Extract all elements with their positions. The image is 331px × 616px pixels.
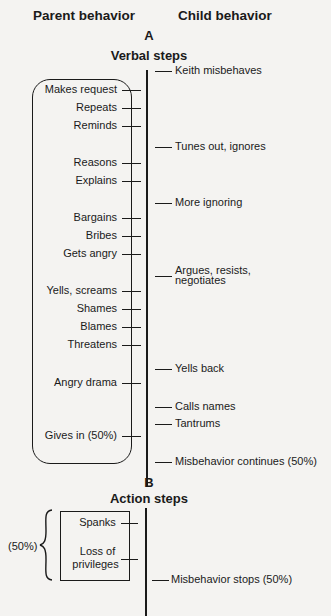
action-step-label: Loss of [70, 545, 125, 558]
child-response-label: Keith misbehaves [175, 64, 262, 77]
response-tick [155, 203, 172, 204]
child-response-label: Misbehavior stops (50%) [171, 573, 292, 586]
section-a-title: Verbal steps [49, 48, 249, 63]
parent-step-label: Bribes [20, 229, 117, 242]
parent-step-label: Gives in (50%) [20, 429, 117, 442]
step-tick [122, 291, 141, 292]
step-tick [122, 218, 141, 219]
step-tick [122, 181, 141, 182]
child-behavior-header: Child behavior [178, 8, 272, 23]
step-tick [122, 345, 141, 346]
step-tick [122, 236, 141, 237]
child-response-label: More ignoring [175, 196, 242, 209]
action-step-label: Spanks [70, 516, 125, 529]
parent-step-label: Shames [20, 302, 117, 315]
parent-step-label: Angry drama [20, 376, 117, 389]
parent-step-label: Reasons [20, 156, 117, 169]
step-tick [122, 436, 141, 437]
step-tick [122, 90, 141, 91]
section-a-letter: A [49, 28, 249, 43]
response-tick [155, 71, 172, 72]
response-tick [155, 369, 172, 370]
response-tick [155, 276, 172, 277]
parent-step-label: Repeats [20, 101, 117, 114]
parent-step-label: Gets angry [20, 247, 117, 260]
response-tick [152, 580, 169, 581]
step-tick [122, 309, 141, 310]
section-b-letter: B [49, 475, 249, 490]
child-response-label: Misbehavior continues (50%) [175, 455, 317, 468]
response-tick [155, 407, 172, 408]
timeline-a [146, 70, 148, 487]
step-tick [122, 254, 141, 255]
response-tick [155, 424, 172, 425]
response-tick [155, 462, 172, 463]
step-tick [122, 383, 141, 384]
parent-step-label: Reminds [20, 119, 117, 132]
response-tick [155, 147, 172, 148]
parent-step-label: Yells, screams [20, 284, 117, 297]
step-tick [122, 163, 141, 164]
child-response-label: Tunes out, ignores [175, 140, 266, 153]
child-response-label: Yells back [175, 362, 224, 375]
step-tick [122, 108, 141, 109]
timeline-b [145, 508, 147, 616]
parent-behavior-header: Parent behavior [33, 8, 135, 23]
parent-step-label: Explains [20, 174, 117, 187]
section-b-title: Action steps [49, 491, 249, 506]
brace-label: (50%) [8, 540, 37, 553]
child-response-label: Tantrums [175, 417, 220, 430]
step-tick [121, 559, 138, 560]
curly-brace-icon [38, 509, 54, 581]
step-tick [122, 327, 141, 328]
action-step-label-line2: privileges [68, 558, 123, 571]
parent-step-label: Blames [20, 320, 117, 333]
parent-step-label: Bargains [20, 211, 117, 224]
child-response-label-line2: negotiates [175, 275, 226, 285]
parent-step-label: Threatens [20, 338, 117, 351]
step-tick [121, 523, 138, 524]
verbal-steps-box [32, 79, 132, 464]
step-tick [122, 126, 141, 127]
child-response-label: Calls names [175, 400, 236, 413]
parent-step-label: Makes request [20, 83, 117, 96]
